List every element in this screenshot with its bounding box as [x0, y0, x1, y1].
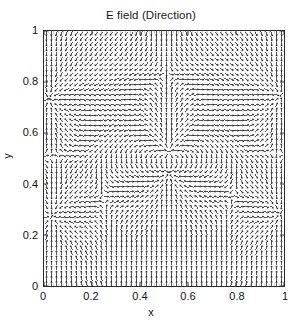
xtick-label-08: 0.8 — [217, 290, 257, 302]
xtick-label-04: 0.4 — [120, 290, 160, 302]
quiver-vector-field — [44, 31, 284, 286]
xtick-label-1: 1 — [265, 290, 302, 302]
y-axis-label: y — [1, 136, 13, 176]
chart-title: E field (Direction) — [0, 8, 302, 22]
ytick-label-04: 0.4 — [8, 178, 38, 190]
ytick-label-02: 0.2 — [8, 229, 38, 241]
figure-canvas: E field (Direction) 1 0.8 0.6 0.4 0.2 0 … — [0, 0, 302, 329]
x-axis-label: x — [0, 306, 302, 318]
xtick-label-0: 0 — [23, 290, 63, 302]
plot-axes — [43, 30, 285, 287]
ytick-label-08: 0.8 — [8, 75, 38, 87]
xtick-label-02: 0.2 — [71, 290, 111, 302]
xtick-label-06: 0.6 — [168, 290, 208, 302]
ytick-label-1: 1 — [8, 24, 38, 36]
